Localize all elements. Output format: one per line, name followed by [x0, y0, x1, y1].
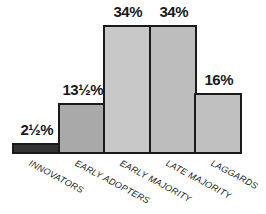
value-label-late-majority: 34%: [144, 3, 204, 20]
bar-early-majority: [103, 25, 151, 154]
bar-innovators: [12, 143, 60, 154]
bar-laggards: [194, 93, 242, 154]
bar-late-majority: [149, 25, 197, 154]
bar-early-adopters: [58, 103, 106, 154]
category-label-early-adopters: EARLY ADOPTERS: [73, 158, 151, 206]
value-label-laggards: 16%: [189, 71, 249, 88]
